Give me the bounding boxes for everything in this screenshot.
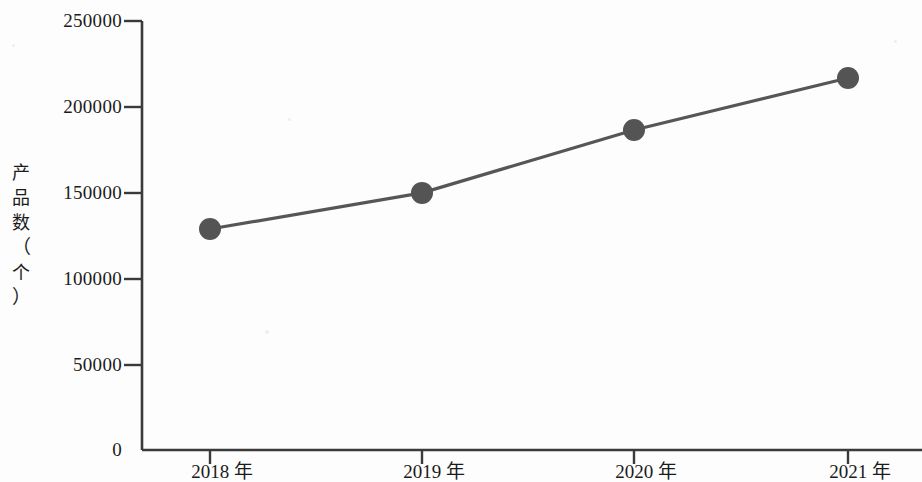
y-axis-title-char-2: 品 bbox=[4, 185, 38, 210]
y-tick-label-0: 0 bbox=[112, 439, 122, 461]
data-point-2018-年 bbox=[199, 218, 221, 240]
x-tick-label-2020: 2020 年 bbox=[615, 456, 677, 482]
data-line bbox=[210, 78, 848, 229]
y-tick-label-200000: 200000 bbox=[63, 96, 122, 118]
y-axis-title-char-1: 产 bbox=[4, 160, 38, 185]
y-axis-title-char-5: 个 bbox=[4, 260, 38, 285]
x-tick-label-2018: 2018 年 bbox=[191, 456, 253, 482]
chart-canvas bbox=[0, 0, 922, 482]
x-tick-label-2019: 2019 年 bbox=[403, 456, 465, 482]
x-axis-ticks bbox=[210, 450, 848, 464]
axes-group bbox=[142, 21, 922, 450]
y-axis-title-char-3: 数 bbox=[4, 210, 38, 235]
y-tick-label-100000: 100000 bbox=[63, 268, 122, 290]
data-point-2020-年 bbox=[623, 119, 645, 141]
line-chart: 250000 200000 150000 100000 50000 0 2018… bbox=[0, 0, 922, 482]
y-tick-label-250000: 250000 bbox=[63, 10, 122, 32]
y-tick-label-50000: 50000 bbox=[73, 354, 122, 376]
y-axis-ticks bbox=[124, 21, 142, 365]
y-axis-title: 产 品 数 （ 个 ） bbox=[4, 160, 38, 310]
y-tick-label-150000: 150000 bbox=[63, 182, 122, 204]
data-point-2019-年 bbox=[411, 182, 433, 204]
y-axis-title-char-6: ） bbox=[4, 285, 38, 310]
x-tick-label-2021: 2021 年 bbox=[829, 456, 891, 482]
data-point-2021-年 bbox=[837, 67, 859, 89]
y-axis-title-char-4: （ bbox=[4, 235, 38, 260]
